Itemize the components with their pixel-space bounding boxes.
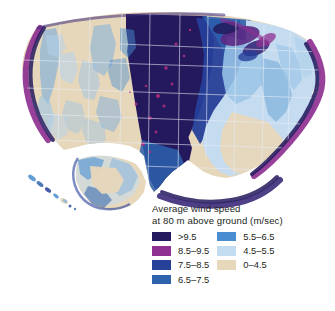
legend-swatch-icon xyxy=(217,246,236,256)
legend-item: >9.5 xyxy=(152,231,209,241)
wind-speed-map-figure: Average wind speed at 80 m above ground … xyxy=(0,0,335,311)
legend-swatch-icon xyxy=(152,260,171,270)
legend-swatch-icon xyxy=(152,246,171,256)
map-legend: Average wind speed at 80 m above ground … xyxy=(152,203,335,285)
legend-item-label: 4.5–5.5 xyxy=(243,246,274,256)
legend-item: 8.5–9.5 xyxy=(152,246,209,256)
legend-column-right: 5.5–6.5 4.5–5.5 0–4.5 xyxy=(217,231,274,284)
legend-item: 4.5–5.5 xyxy=(217,246,274,256)
legend-item-label: 0–4.5 xyxy=(243,260,266,270)
legend-swatch-icon xyxy=(217,260,236,270)
legend-item-label: >9.5 xyxy=(178,232,197,242)
legend-swatch-icon xyxy=(152,275,171,285)
legend-item-label: 8.5–9.5 xyxy=(178,246,209,256)
legend-title-line-1: Average wind speed xyxy=(152,203,335,215)
legend-item: 0–4.5 xyxy=(217,260,274,270)
alaska-inset xyxy=(70,150,155,212)
legend-item: 7.5–8.5 xyxy=(152,260,209,270)
hawaii-inset xyxy=(27,173,76,210)
legend-item: 6.5–7.5 xyxy=(152,275,209,285)
legend-item: 5.5–6.5 xyxy=(217,231,274,241)
legend-swatch-icon xyxy=(152,232,171,242)
legend-item-label: 7.5–8.5 xyxy=(178,260,209,270)
legend-item-label: 5.5–6.5 xyxy=(243,232,274,242)
legend-swatch-icon xyxy=(217,232,236,242)
legend-title-line-2: at 80 m above ground (m/sec) xyxy=(152,215,335,227)
legend-column-left: >9.5 8.5–9.5 7.5–8.5 6.5–7.5 xyxy=(152,231,209,284)
legend-item-label: 6.5–7.5 xyxy=(178,275,209,285)
